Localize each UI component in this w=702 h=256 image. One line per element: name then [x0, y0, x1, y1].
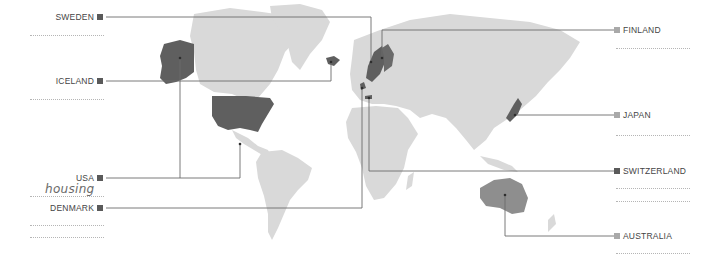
country-iceland: [326, 56, 340, 66]
legend-square-icon: [614, 112, 620, 118]
blank-line: [616, 48, 690, 49]
label-text: AUSTRALIA: [623, 231, 672, 241]
label-sweden: SWEDEN: [20, 12, 106, 22]
legend-square-icon: [97, 175, 103, 181]
label-text: SWITZERLAND: [623, 166, 686, 176]
legend-square-icon: [97, 14, 103, 20]
country-australia: [480, 178, 528, 214]
label-iceland: ICELAND: [20, 76, 106, 86]
label-finland: FINLAND: [611, 25, 661, 35]
legend-square-icon: [97, 205, 103, 211]
label-australia: AUSTRALIA: [611, 231, 672, 241]
legend-square-icon: [614, 168, 620, 174]
blank-line: [30, 196, 104, 197]
world-map: [0, 0, 702, 256]
blank-line: [30, 35, 104, 36]
legend-square-icon: [97, 78, 103, 84]
label-text: FINLAND: [623, 25, 661, 35]
blank-line: [30, 99, 104, 100]
label-denmark: DENMARK: [20, 203, 106, 213]
handwritten-note: housing: [45, 182, 94, 196]
label-text: ICELAND: [56, 76, 94, 86]
blank-line: [30, 237, 104, 238]
blank-line: [616, 188, 690, 189]
label-text: DENMARK: [50, 203, 94, 213]
country-usa-alaska: [160, 40, 194, 84]
blank-line: [616, 253, 690, 254]
label-switzerland: SWITZERLAND: [611, 166, 686, 176]
blank-line: [30, 225, 104, 226]
legend-square-icon: [614, 27, 620, 33]
country-usa: [212, 96, 274, 132]
legend-square-icon: [614, 233, 620, 239]
blank-line: [616, 201, 690, 202]
blank-line: [616, 135, 690, 136]
label-text: SWEDEN: [55, 12, 94, 22]
label-japan: JAPAN: [611, 110, 651, 120]
label-text: JAPAN: [623, 110, 651, 120]
